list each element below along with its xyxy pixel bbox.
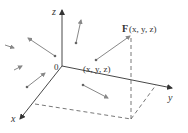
point-label: (x, y, z) bbox=[83, 64, 110, 74]
z-axis-label: z bbox=[51, 6, 56, 17]
dashed-x-parallel bbox=[35, 104, 131, 119]
vector-F-label: F(x, y, z) bbox=[122, 23, 157, 34]
vector-base-point bbox=[75, 42, 78, 45]
x-axis-label: x bbox=[10, 113, 16, 124]
y-axis-label: y bbox=[167, 92, 173, 103]
vector-F bbox=[96, 36, 130, 60]
vector-base-point bbox=[82, 84, 85, 87]
vector-F-base-point bbox=[95, 59, 98, 62]
vector-arrow bbox=[5, 45, 14, 48]
vector-arrow bbox=[27, 73, 45, 87]
vector-base-point bbox=[26, 86, 29, 89]
y-axis bbox=[62, 66, 172, 88]
vector-F-symbol: F bbox=[122, 23, 128, 34]
vector-arrows bbox=[5, 20, 130, 98]
dashed-y-parallel bbox=[131, 85, 156, 119]
vector-arrow bbox=[76, 20, 81, 43]
vector-arrow bbox=[28, 38, 55, 56]
labels: z y x 0 (x, y, z) F(x, y, z) bbox=[10, 6, 173, 124]
vector-F-args: (x, y, z) bbox=[129, 24, 156, 34]
vector-field-diagram: z y x 0 (x, y, z) F(x, y, z) bbox=[0, 0, 188, 133]
origin-label: 0 bbox=[54, 62, 59, 72]
vector-arrow bbox=[83, 85, 108, 98]
vector-base-point bbox=[54, 55, 57, 58]
vector-arrow bbox=[14, 66, 22, 70]
x-axis bbox=[20, 66, 62, 119]
